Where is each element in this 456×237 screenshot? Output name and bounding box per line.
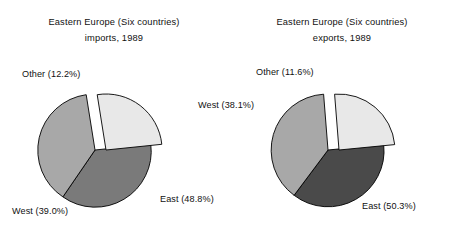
pie-label-east-imports: East (48.8%) [160, 194, 214, 204]
pie-svg-exports [228, 0, 456, 237]
pie-chart-exports [228, 0, 456, 237]
pie-label-other-exports: Other (11.6%) [256, 67, 314, 77]
pie-slice-east-imports [97, 94, 162, 150]
pie-label-east-exports: East (50.3%) [362, 201, 416, 211]
chart-panel-exports: Eastern Europe (Six countries) exports, … [228, 0, 456, 237]
pie-label-west-imports: West (39.0%) [12, 206, 68, 216]
pie-label-west-exports: West (38.1%) [198, 100, 254, 110]
chart-panel-imports: Eastern Europe (Six countries) imports, … [0, 0, 228, 237]
pie-label-other-imports: Other (12.2%) [22, 69, 80, 79]
pie-slice-east-exports [335, 94, 395, 150]
